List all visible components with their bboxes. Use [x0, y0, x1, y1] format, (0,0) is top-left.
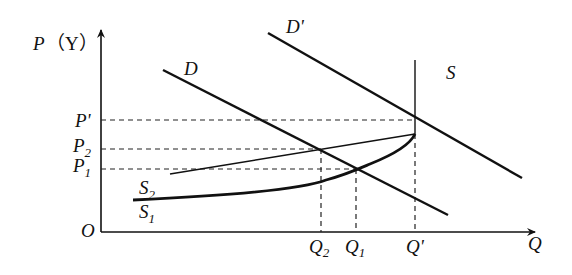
label-s1: S1	[139, 201, 155, 226]
demand-curve-d	[163, 70, 448, 215]
y-axis-label: P	[32, 33, 45, 54]
origin-label: O	[81, 220, 95, 241]
supply-curve-s1	[133, 134, 415, 200]
supply-demand-diagram: P （Y） Q O D D' S S2 S1 P' P2 P1 Q2 Q1 Q'	[0, 0, 572, 275]
label-q2: Q2	[309, 236, 330, 260]
x-axis-label: Q	[528, 233, 542, 254]
label-d-prime: D'	[285, 16, 305, 37]
label-q1: Q1	[345, 236, 365, 260]
label-p-prime: P'	[74, 110, 92, 131]
demand-curve-d-prime	[268, 33, 522, 178]
label-s: S	[446, 62, 456, 83]
y-axis-unit: （Y）	[46, 33, 98, 54]
label-d: D	[183, 58, 198, 79]
supply-curve-s2	[170, 134, 415, 174]
label-q-prime: Q'	[406, 236, 425, 257]
